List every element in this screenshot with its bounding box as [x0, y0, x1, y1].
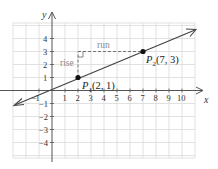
- y-axis-label: y: [41, 9, 47, 20]
- x-tick-5: 5: [115, 93, 119, 103]
- x-tick-7: 7: [141, 93, 145, 103]
- x-tick-1: 1: [63, 93, 67, 103]
- p2-label: P2(7, 3): [145, 54, 179, 68]
- x-axis-label: x: [203, 94, 209, 105]
- coordinate-plane: 1 1 2 3 4 5 6 7 8 9 10 − 4 3 2 1 −1 −2 −…: [0, 0, 218, 169]
- y-tick-neg2: −2: [39, 112, 48, 122]
- x-tick-9: 9: [167, 93, 171, 103]
- y-tick-3: 3: [43, 47, 47, 57]
- x-tick-3: 3: [89, 93, 93, 103]
- x-tick-2: 2: [76, 93, 80, 103]
- x-tick-8: 8: [154, 93, 158, 103]
- y-tick-1: 1: [43, 73, 47, 83]
- x-tick-4: 4: [102, 93, 107, 103]
- x-tick-neg-sign: −: [32, 93, 37, 103]
- point-p2: [140, 49, 145, 54]
- x-tick-labels: 1 1 2 3 4 5 6 7 8 9 10: [36, 93, 186, 103]
- point-p1: [75, 75, 80, 80]
- run-label: run: [97, 40, 110, 50]
- right-angle-marker-icon: [78, 52, 83, 58]
- p1-label: P1(2, 1): [81, 80, 115, 94]
- rise-label: rise: [60, 58, 74, 68]
- x-tick-10: 10: [177, 93, 186, 103]
- y-tick-2: 2: [43, 60, 47, 70]
- y-tick-neg3: −3: [39, 125, 48, 135]
- x-tick-6: 6: [128, 93, 132, 103]
- y-tick-neg4: −4: [39, 138, 49, 148]
- y-tick-neg1: −1: [39, 99, 48, 109]
